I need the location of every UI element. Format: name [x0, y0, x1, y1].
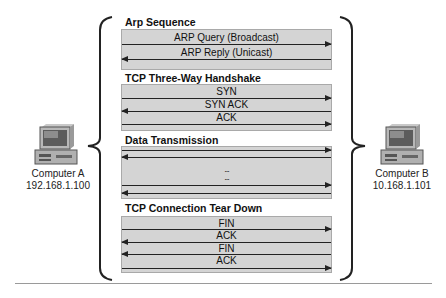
computer-b: Computer B 10.168.1.101: [364, 124, 440, 190]
arrow-right: [122, 44, 331, 45]
arrow-left: [122, 193, 331, 194]
computer-b-name: Computer B: [364, 168, 440, 180]
computer-a-name: Computer A: [20, 168, 96, 180]
arrow-right: [122, 185, 331, 186]
arrow-left: [122, 157, 331, 158]
message-label: SYN ACK: [122, 99, 331, 110]
computer-b-ip: 10.168.1.101: [364, 180, 440, 192]
section-box-teardown: FIN ACK FIN ACK: [121, 216, 332, 273]
computer-a-ip: 192.168.1.100: [20, 180, 96, 192]
section-box-data: ... ...: [121, 146, 332, 199]
message-label: SYN: [122, 86, 331, 97]
section-title-data: Data Transmission: [125, 134, 218, 146]
message-label: ACK: [122, 230, 331, 241]
section-title-handshake: TCP Three-Way Handshake: [125, 72, 261, 84]
arrow-right: [122, 150, 331, 151]
message-label: ACK: [122, 112, 331, 123]
message-label: ARP Reply (Unicast): [122, 47, 331, 58]
message-label: ARP Query (Broadcast): [122, 32, 331, 43]
section-box-handshake: SYN SYN ACK ACK: [121, 84, 332, 131]
section-title-teardown: TCP Connection Tear Down: [125, 202, 262, 214]
message-label: ACK: [122, 255, 331, 266]
message-label: FIN: [122, 243, 331, 254]
horizontal-divider: [15, 283, 432, 284]
desktop-computer-icon: [34, 124, 80, 166]
arrow-left: [122, 59, 331, 60]
message-label: FIN: [122, 218, 331, 229]
arrow-right: [122, 124, 331, 125]
section-box-arp: ARP Query (Broadcast) ARP Reply (Unicast…: [121, 29, 332, 70]
right-brace: [340, 17, 365, 280]
computer-a: Computer A 192.168.1.100: [20, 124, 96, 190]
section-title-arp: Arp Sequence: [125, 16, 196, 28]
ellipsis: ...: [122, 174, 331, 181]
desktop-computer-icon: [380, 124, 426, 166]
arrow-right: [122, 268, 331, 269]
